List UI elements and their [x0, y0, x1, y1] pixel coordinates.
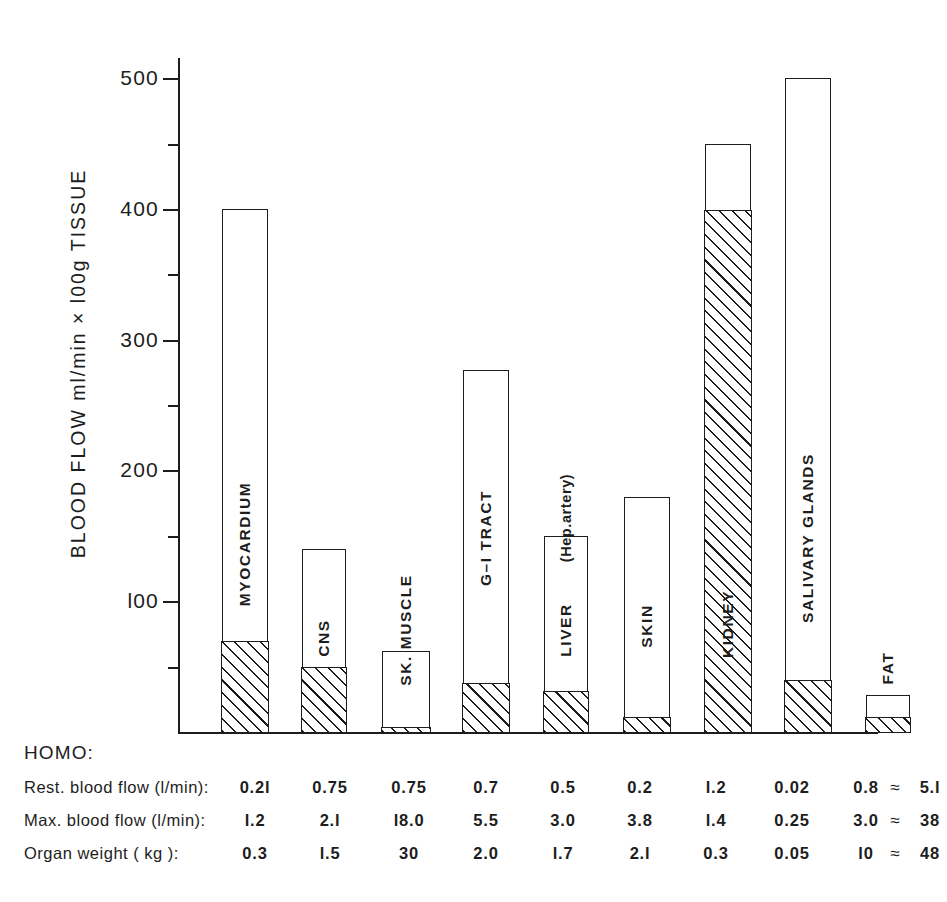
- table-cell: 0.05: [774, 844, 809, 863]
- y-tick-label: 400: [120, 197, 159, 221]
- table-row-label: Max. blood flow (l/min):: [24, 811, 206, 830]
- table-cell: 3.0: [853, 811, 878, 830]
- bar-label-sk-muscle: SK. MUSCLE: [397, 574, 415, 686]
- table-cell: l.5: [320, 844, 341, 863]
- bar-label-liver: LIVER: [557, 603, 575, 657]
- bar-label-g-i-tract: G–I TRACT: [477, 490, 495, 586]
- plot-area: l00200300400500 MYOCARDIUMCNSSK. MUSCLEG…: [178, 52, 878, 734]
- x-axis-baseline: [178, 732, 878, 734]
- bar-label-cns: CNS: [315, 619, 333, 657]
- y-tick-minor: [168, 144, 178, 146]
- bar-myocardium: [222, 209, 268, 732]
- resting-flow-hatch: [865, 717, 910, 733]
- resting-flow-hatch: [381, 727, 430, 732]
- table-cell: l.2: [245, 811, 266, 830]
- table-cell: 2.0: [473, 844, 498, 863]
- table-cell: 0.25: [774, 811, 809, 830]
- y-tick-minor: [168, 536, 178, 538]
- y-tick-major: [163, 209, 178, 211]
- table-cell: 0.75: [312, 778, 347, 797]
- table-rows: Rest. blood flow (l/min):0.2l0.750.750.7…: [24, 778, 924, 877]
- y-tick-major: [163, 78, 178, 80]
- approx-symbol: ≈: [890, 844, 899, 864]
- table-cell: 0.2l: [240, 778, 271, 797]
- table-cell: 30: [399, 844, 419, 863]
- table-row-label: Rest. blood flow (l/min):: [24, 778, 209, 797]
- table-cell: l.2: [706, 778, 727, 797]
- bar-label-skin: SKIN: [638, 604, 656, 647]
- bar-salivary-glands: [785, 78, 831, 732]
- y-tick-label: 200: [120, 458, 159, 482]
- resting-flow-hatch: [784, 680, 831, 732]
- table-cell: 0.5: [550, 778, 575, 797]
- blood-flow-bar-chart: BLOOD FLOW ml/min × l00g TISSUE l0020030…: [0, 0, 947, 902]
- table-total: 48: [920, 844, 940, 863]
- bar-label-fat: FAT: [879, 652, 897, 685]
- table-cell: 3.0: [550, 811, 575, 830]
- table-row: Max. blood flow (l/min):l.22.ll8.05.53.0…: [24, 811, 924, 844]
- y-axis-line: [178, 58, 180, 734]
- y-axis-title: BLOOD FLOW ml/min × l00g TISSUE: [67, 54, 90, 674]
- y-tick-label: l00: [127, 589, 159, 613]
- table-cell: 5.5: [473, 811, 498, 830]
- table-cell: 0.3: [703, 844, 728, 863]
- y-tick-major: [163, 470, 178, 472]
- table-total: 38: [920, 811, 940, 830]
- table-cell: l8.0: [394, 811, 425, 830]
- bar-label-salivary-glands: SALIVARY GLANDS: [799, 453, 817, 623]
- y-tick-label: 300: [120, 328, 159, 352]
- table-row-label: Organ weight ( kg ):: [24, 844, 179, 863]
- table-cell: l.7: [553, 844, 574, 863]
- table-cell: l.4: [706, 811, 727, 830]
- table-heading: HOMO:: [24, 742, 924, 764]
- table-cell: 2.l: [320, 811, 341, 830]
- y-tick-major: [163, 340, 178, 342]
- table-row: Rest. blood flow (l/min):0.2l0.750.750.7…: [24, 778, 924, 811]
- data-table: HOMO: Rest. blood flow (l/min):0.2l0.750…: [24, 742, 924, 877]
- resting-flow-hatch: [462, 683, 509, 733]
- y-tick-minor: [168, 405, 178, 407]
- resting-flow-hatch: [623, 717, 670, 733]
- table-cell: 3.8: [627, 811, 652, 830]
- y-tick-label: 500: [120, 66, 159, 90]
- bar-label-myocardium: MYOCARDIUM: [236, 482, 254, 607]
- table-cell: 0.7: [473, 778, 498, 797]
- bar-fat: [866, 695, 910, 732]
- bar-label-kidney: KIDNEY: [719, 590, 737, 658]
- table-row: Organ weight ( kg ):0.3l.5302.0l.72.l0.3…: [24, 844, 924, 877]
- table-cell: l0: [858, 844, 873, 863]
- resting-flow-hatch: [221, 641, 268, 733]
- table-cell: 0.75: [391, 778, 426, 797]
- table-cell: 0.8: [853, 778, 878, 797]
- approx-symbol: ≈: [890, 811, 899, 831]
- y-tick-major: [163, 601, 178, 603]
- table-cell: 2.l: [630, 844, 651, 863]
- y-tick-minor: [168, 667, 178, 669]
- table-cell: 0.2: [627, 778, 652, 797]
- table-cell: 0.3: [242, 844, 267, 863]
- resting-flow-hatch: [301, 667, 346, 732]
- table-total: 5.l: [920, 778, 941, 797]
- y-tick-minor: [168, 274, 178, 276]
- table-cell: 0.02: [774, 778, 809, 797]
- resting-flow-hatch: [543, 691, 588, 733]
- approx-symbol: ≈: [890, 778, 899, 798]
- bar-annotation-hep-artery: (Hep.artery): [558, 474, 574, 563]
